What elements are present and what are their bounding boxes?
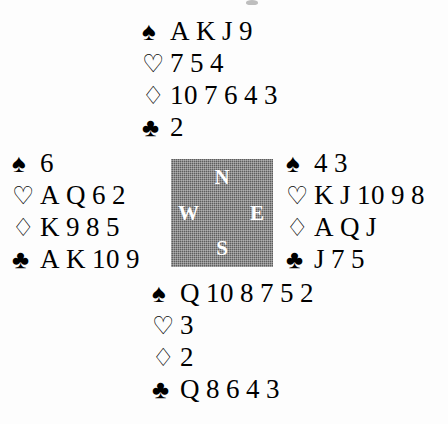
compass-label-east: E <box>250 203 264 224</box>
hand-south: ♠ Q108752 ♡ 3 ♢ 2 ♣ Q8643 <box>152 278 314 406</box>
diamond-icon: ♢ <box>286 213 312 243</box>
card-rank: 6 <box>226 374 240 404</box>
diamond-icon: ♢ <box>142 81 168 111</box>
card-rank: 2 <box>170 112 184 142</box>
south-hearts-cards: 3 <box>180 310 194 340</box>
north-diamonds-row: ♢ 107643 <box>142 80 278 112</box>
card-rank: J <box>366 212 377 242</box>
card-rank: 9 <box>126 244 140 274</box>
card-rank: 5 <box>280 278 294 308</box>
card-rank: K <box>40 212 60 242</box>
card-rank: 2 <box>300 278 314 308</box>
card-rank: J <box>340 180 351 210</box>
card-rank: 3 <box>334 148 348 178</box>
bridge-deal-diagram: ♠ AKJ9 ♡ 754 ♢ 107643 ♣ 2 ♠ 6 ♡ AQ62 ♢ K… <box>0 0 448 424</box>
east-spades-row: ♠ 43 <box>286 148 425 180</box>
north-spades-row: ♠ AKJ9 <box>142 16 278 48</box>
card-rank: A <box>40 244 60 274</box>
card-rank: A <box>170 16 190 46</box>
club-icon: ♣ <box>142 113 168 143</box>
card-rank: 10 <box>357 180 385 210</box>
east-clubs-cards: J75 <box>314 244 365 274</box>
card-rank: A <box>314 212 334 242</box>
west-spades-cards: 6 <box>40 148 54 178</box>
hand-north: ♠ AKJ9 ♡ 754 ♢ 107643 ♣ 2 <box>142 16 278 144</box>
card-rank: J <box>314 244 325 274</box>
east-diamonds-cards: AQJ <box>314 212 377 242</box>
north-spades-cards: AKJ9 <box>170 16 253 46</box>
hand-west: ♠ 6 ♡ AQ62 ♢ K985 ♣ AK109 <box>12 148 140 276</box>
south-spades-cards: Q108752 <box>180 278 314 308</box>
diamond-icon: ♢ <box>12 213 38 243</box>
east-hearts-row: ♡ KJ1098 <box>286 180 425 212</box>
card-rank: 5 <box>190 48 204 78</box>
card-rank: 6 <box>92 180 106 210</box>
west-clubs-cards: AK109 <box>40 244 140 274</box>
heart-icon: ♡ <box>12 181 38 211</box>
south-hearts-row: ♡ 3 <box>152 310 314 342</box>
heart-icon: ♡ <box>142 49 168 79</box>
card-rank: 5 <box>106 212 120 242</box>
card-rank: 4 <box>314 148 328 178</box>
club-icon: ♣ <box>12 245 38 275</box>
scan-artifact <box>246 0 258 5</box>
east-diamonds-row: ♢ AQJ <box>286 212 425 244</box>
west-spades-row: ♠ 6 <box>12 148 140 180</box>
card-rank: 10 <box>92 244 120 274</box>
card-rank: 5 <box>351 244 365 274</box>
card-rank: 4 <box>244 80 258 110</box>
card-rank: Q <box>340 212 360 242</box>
diamond-icon: ♢ <box>152 343 178 373</box>
card-rank: 9 <box>239 16 253 46</box>
north-hearts-row: ♡ 754 <box>142 48 278 80</box>
card-rank: 8 <box>86 212 100 242</box>
compass-label-west: W <box>178 203 199 224</box>
card-rank: J <box>222 16 233 46</box>
heart-icon: ♡ <box>152 311 178 341</box>
card-rank: A <box>40 180 60 210</box>
card-rank: K <box>196 16 216 46</box>
compass-label-south: S <box>171 238 273 259</box>
spade-icon: ♠ <box>286 149 312 179</box>
spade-icon: ♠ <box>142 17 168 47</box>
west-hearts-row: ♡ AQ62 <box>12 180 140 212</box>
compass-label-north: N <box>171 167 273 188</box>
card-rank: 10 <box>206 278 234 308</box>
east-clubs-row: ♣ J75 <box>286 244 425 276</box>
card-rank: 3 <box>266 374 280 404</box>
card-rank: 4 <box>246 374 260 404</box>
card-rank: 9 <box>66 212 80 242</box>
spade-icon: ♠ <box>12 149 38 179</box>
club-icon: ♣ <box>152 375 178 405</box>
north-clubs-row: ♣ 2 <box>142 112 278 144</box>
hand-east: ♠ 43 ♡ KJ1098 ♢ AQJ ♣ J75 <box>286 148 425 276</box>
west-clubs-row: ♣ AK109 <box>12 244 140 276</box>
west-diamonds-row: ♢ K985 <box>12 212 140 244</box>
spade-icon: ♠ <box>152 279 178 309</box>
card-rank: 8 <box>206 374 220 404</box>
card-rank: Q <box>66 180 86 210</box>
south-clubs-cards: Q8643 <box>180 374 280 404</box>
card-rank: 3 <box>264 80 278 110</box>
card-rank: 6 <box>224 80 238 110</box>
card-rank: Q <box>180 278 200 308</box>
east-hearts-cards: KJ1098 <box>314 180 425 210</box>
card-rank: 6 <box>40 148 54 178</box>
west-hearts-cards: AQ62 <box>40 180 126 210</box>
card-rank: 3 <box>180 310 194 340</box>
south-clubs-row: ♣ Q8643 <box>152 374 314 406</box>
south-spades-row: ♠ Q108752 <box>152 278 314 310</box>
north-clubs-cards: 2 <box>170 112 184 142</box>
east-spades-cards: 43 <box>314 148 348 178</box>
card-rank: 7 <box>204 80 218 110</box>
club-icon: ♣ <box>286 245 312 275</box>
card-rank: 8 <box>240 278 254 308</box>
west-diamonds-cards: K985 <box>40 212 120 242</box>
card-rank: 8 <box>411 180 425 210</box>
card-rank: 2 <box>180 342 194 372</box>
card-rank: 4 <box>210 48 224 78</box>
card-rank: K <box>66 244 86 274</box>
north-hearts-cards: 754 <box>170 48 224 78</box>
north-diamonds-cards: 107643 <box>170 80 278 110</box>
heart-icon: ♡ <box>286 181 312 211</box>
